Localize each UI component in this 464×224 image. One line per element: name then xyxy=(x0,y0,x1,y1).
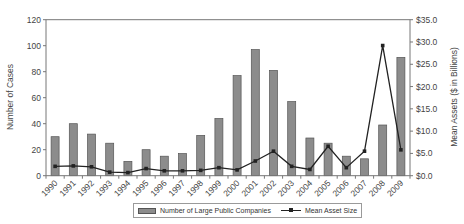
svg-text:40: 40 xyxy=(32,119,42,129)
svg-text:1995: 1995 xyxy=(130,178,151,199)
line-point-2003 xyxy=(290,165,294,169)
svg-text:$5.0: $5.0 xyxy=(416,148,433,158)
bar-1990 xyxy=(51,137,59,176)
svg-text:1991: 1991 xyxy=(57,178,78,199)
legend-line-label: Mean Asset Size xyxy=(305,207,357,214)
line-point-1998 xyxy=(199,169,203,173)
line-point-1991 xyxy=(72,164,76,168)
line-point-1996 xyxy=(163,169,167,173)
svg-text:2004: 2004 xyxy=(294,178,315,199)
svg-text:$15.0: $15.0 xyxy=(416,104,438,114)
svg-text:2000: 2000 xyxy=(221,178,242,199)
svg-text:$25.0: $25.0 xyxy=(416,59,438,69)
svg-text:2002: 2002 xyxy=(257,178,278,199)
combo-chart: 020406080100120 $0.0$5.0$10.0$15.0$20.0$… xyxy=(0,0,464,224)
line-point-2001 xyxy=(254,159,258,163)
bar-1995 xyxy=(142,150,150,176)
legend: Number of Large Public Companies Mean As… xyxy=(133,203,362,218)
line-point-2002 xyxy=(272,149,276,153)
line-point-1993 xyxy=(108,170,112,174)
legend-bar-label: Number of Large Public Companies xyxy=(160,207,271,214)
svg-text:1990: 1990 xyxy=(39,178,60,199)
line-point-1990 xyxy=(53,165,57,169)
bar-swatch-icon xyxy=(138,208,156,214)
line-marker-swatch-icon xyxy=(281,207,301,214)
right-axis-title: Mean Assets ($ in Billions) xyxy=(449,47,459,147)
bar-2007 xyxy=(361,159,369,176)
svg-text:60: 60 xyxy=(32,93,42,103)
svg-text:$30.0: $30.0 xyxy=(416,37,438,47)
svg-text:100: 100 xyxy=(27,41,41,51)
line-point-1992 xyxy=(90,165,94,169)
bar-2001 xyxy=(251,50,259,176)
svg-text:2003: 2003 xyxy=(276,178,297,199)
bar-2002 xyxy=(270,70,278,175)
left-axis-title: Number of Cases xyxy=(5,64,15,130)
line-point-1997 xyxy=(181,169,185,173)
line-point-2008 xyxy=(381,44,385,48)
line-point-1999 xyxy=(217,166,221,170)
svg-text:2007: 2007 xyxy=(348,178,369,199)
svg-text:$0.0: $0.0 xyxy=(416,171,433,181)
svg-text:120: 120 xyxy=(27,15,41,25)
svg-text:$20.0: $20.0 xyxy=(416,82,438,92)
svg-text:0: 0 xyxy=(36,171,41,181)
line-point-2000 xyxy=(235,168,239,172)
line-point-2009 xyxy=(399,148,403,152)
bar-1996 xyxy=(160,156,168,176)
line-point-2005 xyxy=(326,144,330,148)
line-point-2007 xyxy=(363,149,367,153)
svg-text:2008: 2008 xyxy=(367,178,388,199)
svg-text:2006: 2006 xyxy=(330,178,351,199)
svg-text:2005: 2005 xyxy=(312,178,333,199)
svg-text:80: 80 xyxy=(32,67,42,77)
svg-text:$10.0: $10.0 xyxy=(416,126,438,136)
bar-2009 xyxy=(397,57,405,175)
left-y-axis: 020406080100120 xyxy=(27,15,46,181)
svg-text:1994: 1994 xyxy=(112,178,133,199)
svg-text:1992: 1992 xyxy=(75,178,96,199)
svg-text:1997: 1997 xyxy=(166,178,187,199)
line-point-2004 xyxy=(308,168,312,172)
line-point-1995 xyxy=(144,167,148,171)
svg-text:1993: 1993 xyxy=(94,178,115,199)
svg-text:$35.0: $35.0 xyxy=(416,15,438,25)
svg-text:1998: 1998 xyxy=(185,178,206,199)
bar-1991 xyxy=(69,124,77,176)
svg-text:20: 20 xyxy=(32,145,42,155)
line-point-1994 xyxy=(126,171,130,175)
right-y-axis: $0.0$5.0$10.0$15.0$20.0$25.0$30.0$35.0 xyxy=(410,15,438,181)
bar-2008 xyxy=(379,125,387,176)
x-axis: 1990199119921993199419951996199719981999… xyxy=(39,176,410,199)
legend-item-line: Mean Asset Size xyxy=(281,207,357,214)
bar-series xyxy=(51,50,405,176)
svg-text:2001: 2001 xyxy=(239,178,260,199)
bar-2000 xyxy=(233,76,241,176)
legend-item-bars: Number of Large Public Companies xyxy=(138,207,271,214)
svg-text:1999: 1999 xyxy=(203,178,224,199)
svg-text:2009: 2009 xyxy=(385,178,406,199)
line-point-2006 xyxy=(345,166,349,170)
svg-text:1996: 1996 xyxy=(148,178,169,199)
bar-1992 xyxy=(88,134,96,176)
